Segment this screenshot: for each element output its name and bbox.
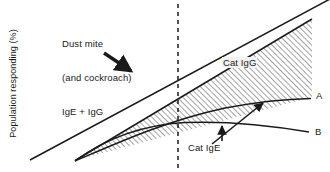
curve-a-label: A [316,90,322,101]
annotation-dust-mite-line2: (and cockroach) [62,72,132,84]
annotation-dust-mite-line1: Dust mite [62,38,132,50]
annotation-cat-igg: Cat IgG [222,57,257,68]
figure-canvas: Population responding (%) Dust mite (and… [0,0,330,172]
annotation-dust-mite: Dust mite (and cockroach) IgE + IgG [62,16,132,140]
annotation-dust-mite-line3: IgE + IgG [62,106,132,118]
annotation-cat-ige: Cat IgE [188,142,220,153]
curve-b-label: B [315,126,321,137]
figure-graphics [0,0,330,172]
y-axis-label: Population responding (%) [8,25,19,143]
